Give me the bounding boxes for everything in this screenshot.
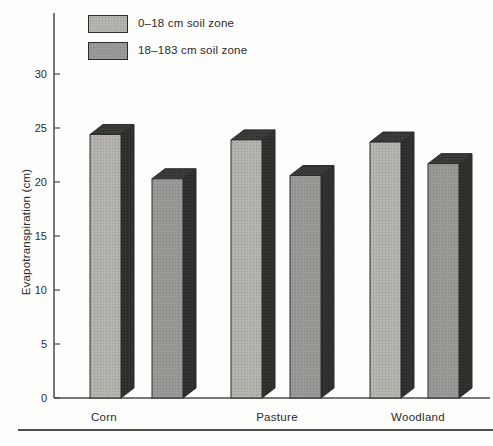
bar-pasture-18-183cm-side-face	[321, 166, 334, 398]
category-label-woodland: Woodland	[391, 411, 445, 423]
y-tick-label-0: 0	[41, 392, 47, 404]
y-tick-label-25: 25	[35, 122, 47, 134]
figure-bottom-rule	[18, 429, 493, 431]
bar-woodland-0-18cm	[370, 142, 401, 398]
category-label-corn: Corn	[91, 411, 117, 423]
bar-pasture-18-183cm	[290, 176, 321, 398]
y-tick-label-20: 20	[35, 176, 47, 188]
bar-chart-canvas: 051015202530CornPastureWoodland	[0, 0, 493, 446]
category-label-pasture: Pasture	[256, 411, 298, 423]
y-tick-label-30: 30	[35, 68, 47, 80]
bar-corn-0-18cm-side-face	[121, 124, 134, 398]
bar-corn-18-183cm-side-face	[183, 169, 196, 398]
y-tick-label-10: 10	[35, 284, 47, 296]
y-tick-label-5: 5	[41, 338, 47, 350]
y-tick-label-15: 15	[35, 230, 47, 242]
evapotranspiration-bar-chart-figure: 0–18 cm soil zone 18–183 cm soil zone Ev…	[0, 0, 493, 446]
bar-pasture-0-18cm	[231, 140, 262, 398]
bar-corn-18-183cm	[152, 179, 183, 398]
bar-woodland-0-18cm-side-face	[401, 132, 414, 398]
bar-corn-0-18cm	[90, 134, 121, 398]
bar-woodland-18-183cm	[428, 164, 459, 398]
bar-pasture-0-18cm-side-face	[262, 130, 275, 398]
bar-woodland-18-183cm-side-face	[459, 154, 472, 398]
